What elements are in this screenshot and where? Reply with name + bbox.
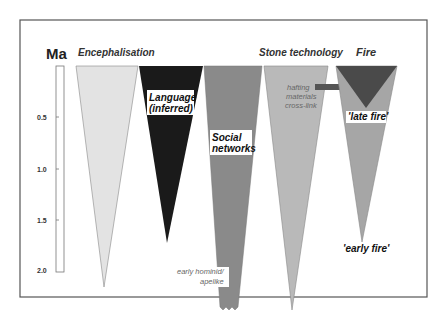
header-encephalisation: Encephalisation [78,47,155,58]
tick-1-0: 1.0 [37,166,47,173]
social-networks-label: Social [212,132,242,143]
materials-label: materials [286,92,317,101]
cross-link-label: cross-link [285,101,318,110]
axis-unit-label: Ma [46,45,67,62]
human-evolution-diagram: Ma 0.5 1.0 1.5 2.0 Encephalisation Stone… [0,0,443,326]
header-stone-technology: Stone technology [259,47,343,58]
tick-2-0: 2.0 [37,267,47,274]
apelike-label: apelike [200,277,224,286]
language-label: Language [149,92,197,103]
late-fire-label: 'late fire' [348,111,389,122]
header-fire: Fire [356,46,376,58]
tick-0-5: 0.5 [37,114,47,121]
tick-1-5: 1.5 [37,217,47,224]
early-fire-label: 'early fire' [343,243,390,254]
language-label-inferred: (inferred) [149,103,194,114]
early-hominid-label: early hominid/ [177,267,225,276]
hafting-label: hafting [287,83,310,92]
social-networks-label-2: networks [212,143,256,154]
